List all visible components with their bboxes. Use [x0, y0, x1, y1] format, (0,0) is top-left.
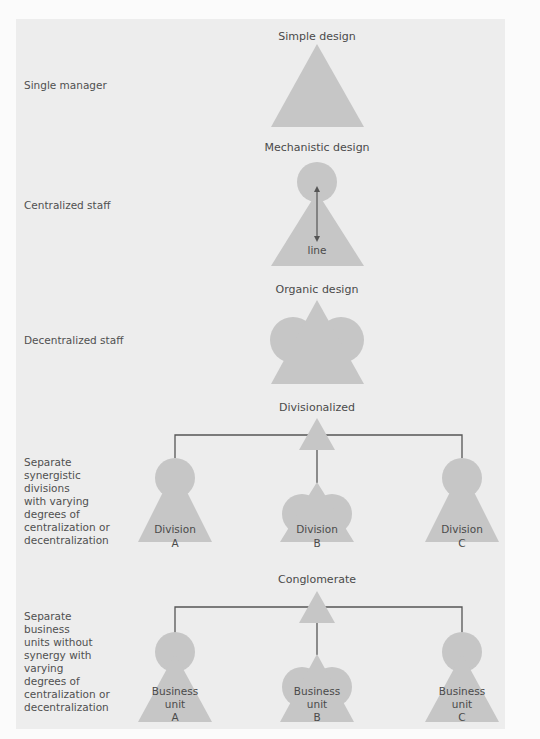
- business-unit-a: Business unit A: [138, 632, 212, 723]
- divisional-hq-triangle: [299, 418, 335, 450]
- unit-c-label-2: unit: [452, 698, 472, 710]
- division-b: Division B: [280, 482, 354, 549]
- organic-shape: [270, 300, 364, 384]
- division-a: Division A: [138, 458, 212, 549]
- division-a-label-2: A: [171, 537, 179, 549]
- unit-c-label-1: Business: [439, 685, 485, 697]
- unit-a-label-2: unit: [165, 698, 185, 710]
- unit-a-label-1: Business: [152, 685, 198, 697]
- simple-title: Simple design: [278, 30, 356, 43]
- unit-c-label-3: C: [458, 711, 465, 723]
- conglomerate-title: Conglomerate: [278, 573, 356, 586]
- organic-title: Organic design: [276, 283, 359, 296]
- business-unit-c: Business unit C: [425, 632, 499, 723]
- structure-diagram: Simple design Mechanistic design line Or…: [0, 0, 540, 739]
- unit-b-label-1: Business: [294, 685, 340, 697]
- mechanistic-title: Mechanistic design: [264, 141, 369, 154]
- unit-b-label-2: unit: [307, 698, 327, 710]
- line-label: line: [308, 244, 327, 256]
- division-a-label-1: Division: [154, 523, 196, 535]
- unit-b-label-3: B: [313, 711, 320, 723]
- division-c-label-2: C: [458, 537, 465, 549]
- unit-a-label-3: A: [171, 711, 179, 723]
- division-c: Division C: [425, 458, 499, 549]
- division-b-label-1: Division: [296, 523, 338, 535]
- simple-triangle: [271, 44, 364, 127]
- division-b-label-2: B: [313, 537, 320, 549]
- divisionalized-title: Divisionalized: [279, 401, 355, 414]
- division-c-label-1: Division: [441, 523, 483, 535]
- business-unit-b: Business unit B: [280, 654, 354, 723]
